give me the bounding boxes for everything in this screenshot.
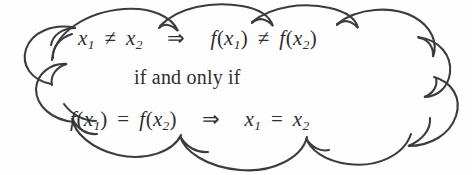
equals-operator: = <box>115 107 132 131</box>
subscript-2: 2 <box>303 37 310 52</box>
variable-x: x <box>293 26 303 50</box>
paren-close: ) <box>100 107 107 131</box>
variable-x: x <box>224 26 234 50</box>
subscript-1: 1 <box>234 37 241 52</box>
paren-open: ( <box>76 107 83 131</box>
not-equal-operator: ≠ <box>102 26 119 50</box>
paren-close: ) <box>241 26 248 50</box>
paren-open: ( <box>286 26 293 50</box>
variable-x: x <box>293 107 303 131</box>
variable-x: x <box>153 107 163 131</box>
equation-line-injective-definition: f(x1)=f(x2)⇒x1=x2 <box>70 107 309 134</box>
figure-canvas: x1≠x2⇒f(x1)≠f(x2) if and only if f(x1)=f… <box>0 0 472 175</box>
variable-x: x <box>244 107 254 131</box>
variable-x: x <box>126 26 136 50</box>
equation-line-injective-contrapositive: x1≠x2⇒f(x1)≠f(x2) <box>78 26 317 53</box>
equals-operator: = <box>268 107 285 131</box>
paren-close: ) <box>310 26 317 50</box>
subscript-1: 1 <box>88 37 95 52</box>
subscript-2: 2 <box>136 37 143 52</box>
equation-text-layer: x1≠x2⇒f(x1)≠f(x2) if and only if f(x1)=f… <box>0 0 472 175</box>
not-equal-operator: ≠ <box>255 26 272 50</box>
implies-operator: ⇒ <box>165 26 189 50</box>
subscript-1: 1 <box>254 118 261 133</box>
paren-close: ) <box>170 107 177 131</box>
implies-operator: ⇒ <box>199 107 223 131</box>
paren-open: ( <box>146 107 153 131</box>
paren-open: ( <box>217 26 224 50</box>
variable-x: x <box>84 107 94 131</box>
subscript-2: 2 <box>162 118 169 133</box>
subscript-2: 2 <box>302 118 309 133</box>
connector-phrase-if-and-only-if: if and only if <box>134 66 241 89</box>
variable-x: x <box>78 26 88 50</box>
